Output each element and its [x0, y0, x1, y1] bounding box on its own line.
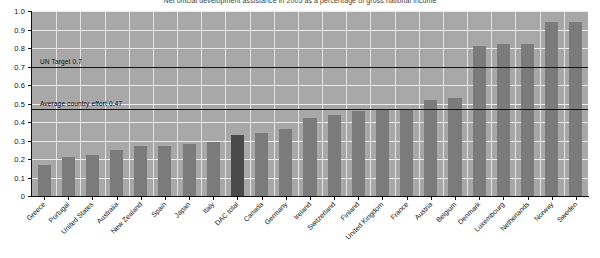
x-label-slot: Austria [419, 197, 443, 258]
y-tick-label: 0.4 [14, 118, 25, 127]
bar-denmark[interactable] [473, 46, 486, 196]
y-tick-label: 0.5 [14, 99, 25, 108]
x-label-slot: Canada [250, 197, 274, 258]
y-tick-label: 0 [21, 192, 25, 201]
bar-slot [129, 11, 153, 196]
bar-slot [322, 11, 346, 196]
bar-greece[interactable] [38, 165, 51, 196]
bar-slot [564, 11, 588, 196]
bar-slot [443, 11, 467, 196]
bar-slot [467, 11, 491, 196]
x-label-slot: Greece [32, 197, 56, 258]
x-label-slot: Sweden [564, 197, 588, 258]
x-label-slot: Spain [153, 197, 177, 258]
reference-line [32, 109, 588, 110]
y-tick-label: 0.9 [14, 25, 25, 34]
x-label-slot: Belgium [443, 197, 467, 258]
bar-slot [225, 11, 249, 196]
bar-switzerland[interactable] [328, 115, 341, 196]
bar-united-kingdom[interactable] [376, 109, 389, 196]
x-label-slot: Switzerland [322, 197, 346, 258]
bar-slot [250, 11, 274, 196]
x-label-slot: DAC total [225, 197, 249, 258]
bar-slot [201, 11, 225, 196]
x-label-slot: Japan [177, 197, 201, 258]
x-label-slot: Italy [201, 197, 225, 258]
bar-slot [370, 11, 394, 196]
bar-slot [298, 11, 322, 196]
y-tick-label: 1.0 [14, 7, 25, 16]
x-axis-labels: GreecePortugalUnited StatesAustraliaNew … [32, 197, 588, 258]
bar-slot [491, 11, 515, 196]
bar-germany[interactable] [279, 129, 292, 196]
x-label-slot: New Zealand [129, 197, 153, 258]
plot-area: UN Target 0.7Average country effort 0.47 [32, 11, 588, 196]
reference-line-label: Average country effort 0.47 [40, 100, 122, 107]
y-tick-label: 0.3 [14, 136, 25, 145]
bar-slot [153, 11, 177, 196]
x-label-slot: France [395, 197, 419, 258]
bar-slot [515, 11, 539, 196]
bar-slot [346, 11, 370, 196]
x-label-slot: Netherlands [515, 197, 539, 258]
bar-slot [274, 11, 298, 196]
y-tick-label: 0.6 [14, 81, 25, 90]
x-label-slot: United States [80, 197, 104, 258]
x-label-slot: Germany [274, 197, 298, 258]
bar-italy[interactable] [207, 142, 220, 196]
x-label-slot: United Kingdom [370, 197, 394, 258]
reference-line [32, 67, 588, 68]
y-tick-label: 0.1 [14, 173, 25, 182]
reference-line-label: UN Target 0.7 [40, 58, 82, 65]
y-tick-label: 0.8 [14, 44, 25, 53]
bar-slot [177, 11, 201, 196]
y-tick-label: 0.2 [14, 155, 25, 164]
y-axis: 00.10.20.30.40.50.60.70.80.91.0 [0, 11, 32, 196]
bar-belgium[interactable] [448, 98, 461, 196]
bar-austria[interactable] [424, 100, 437, 196]
chart-title: Net official development assistance in 2… [0, 0, 600, 4]
bar-japan[interactable] [183, 144, 196, 196]
y-tick-label: 0.7 [14, 62, 25, 71]
x-label-slot: Norway [540, 197, 564, 258]
bar-dac-total[interactable] [231, 135, 244, 196]
bar-slot [540, 11, 564, 196]
bar-slot [419, 11, 443, 196]
